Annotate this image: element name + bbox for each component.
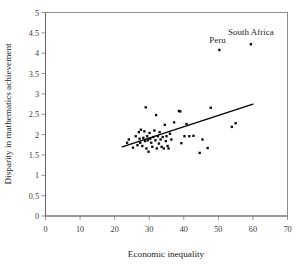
data-point <box>147 139 149 141</box>
x-tick-label: 20 <box>111 225 119 234</box>
data-point <box>201 138 203 140</box>
y-tick-label: 5 <box>35 9 39 18</box>
data-point <box>145 147 147 149</box>
data-point <box>153 129 155 131</box>
data-point <box>145 106 147 108</box>
data-point <box>159 138 161 140</box>
data-point <box>170 138 172 140</box>
y-axis-title: Disparity in mathematics achievement <box>3 43 13 185</box>
data-point <box>188 135 190 137</box>
data-point <box>141 145 143 147</box>
x-tick-label: 60 <box>249 225 257 234</box>
data-point <box>166 145 168 147</box>
data-point <box>180 142 182 144</box>
data-point <box>218 49 220 51</box>
data-point <box>142 137 144 139</box>
data-point <box>154 139 156 141</box>
data-point <box>173 121 175 123</box>
data-point <box>164 124 166 126</box>
data-point <box>231 126 233 128</box>
data-point <box>140 129 142 131</box>
data-point <box>151 146 153 148</box>
data-point <box>128 138 130 140</box>
chart-canvas: 00.511.522.533.544.55 010203040506070 Pe… <box>0 0 302 264</box>
y-tick-label: 3 <box>35 90 39 99</box>
point-label: Peru <box>209 35 226 45</box>
data-point <box>179 110 181 112</box>
y-tick-label: 4.5 <box>29 29 39 38</box>
x-tick-label: 10 <box>76 225 84 234</box>
data-point <box>165 135 167 137</box>
data-point <box>147 150 149 152</box>
y-tick-label: 0.5 <box>29 192 39 201</box>
data-point <box>146 135 148 137</box>
y-tick-label: 4 <box>35 49 39 58</box>
data-point <box>162 136 164 138</box>
y-tick-label: 0 <box>35 212 39 221</box>
data-point <box>138 137 140 139</box>
data-point <box>160 146 162 148</box>
data-point <box>150 142 152 144</box>
data-point <box>158 142 160 144</box>
y-tick-label: 3.5 <box>29 70 39 79</box>
x-tick-label: 0 <box>43 225 47 234</box>
y-tick-label: 1 <box>35 171 39 180</box>
y-tick-label: 1.5 <box>29 151 39 160</box>
y-tick-label: 2.5 <box>29 110 39 119</box>
x-axis-title: Economic inequality <box>128 249 205 259</box>
data-point <box>169 133 171 135</box>
data-point <box>126 142 128 144</box>
x-tick-label: 40 <box>180 225 188 234</box>
data-point <box>135 135 137 137</box>
data-point <box>156 147 158 149</box>
data-point <box>210 107 212 109</box>
data-point <box>234 122 236 124</box>
data-point <box>158 131 160 133</box>
y-tick-label: 2 <box>35 131 39 140</box>
point-label: South Africa <box>228 27 274 37</box>
data-point <box>155 114 157 116</box>
data-point <box>136 144 138 146</box>
x-tick-label: 50 <box>214 225 222 234</box>
x-tick-label: 70 <box>283 225 291 234</box>
data-point <box>167 147 169 149</box>
scatter-plot-figure: 00.511.522.533.544.55 010203040506070 Pe… <box>0 0 302 264</box>
data-point <box>163 147 165 149</box>
data-point <box>138 131 140 133</box>
data-point <box>250 43 252 45</box>
data-point <box>206 147 208 149</box>
data-point <box>165 140 167 142</box>
data-point <box>192 135 194 137</box>
data-point <box>132 146 134 148</box>
data-point <box>198 152 200 154</box>
data-point <box>148 132 150 134</box>
data-point <box>183 135 185 137</box>
data-point <box>143 130 145 132</box>
x-tick-label: 30 <box>145 225 153 234</box>
